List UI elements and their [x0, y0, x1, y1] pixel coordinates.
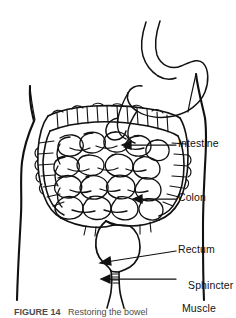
rectum	[96, 221, 140, 272]
leader-intestine	[122, 141, 176, 149]
label-intestine: Intestine	[178, 138, 219, 150]
label-colon: Colon	[178, 192, 206, 204]
label-rectum: Rectum	[178, 244, 215, 256]
figure-caption: FIGURE 14 Restoring the bowel	[14, 308, 148, 317]
colon	[38, 106, 188, 228]
figure-caption-prefix: FIGURE 14	[14, 308, 61, 317]
stomach	[127, 21, 207, 117]
figure-caption-strip: FIGURE 14 Restoring the bowel	[0, 308, 236, 318]
leader-colon	[133, 195, 176, 203]
duodenum	[106, 93, 137, 143]
label-sphincter-line1: Sphincter	[188, 279, 233, 291]
body-outline-left	[17, 86, 35, 300]
figure-caption-rest: Restoring the bowel	[61, 308, 148, 317]
figure-root: Intestine Colon Rectum Sphincter Muscle …	[0, 0, 236, 318]
body-outline-right	[188, 74, 206, 300]
